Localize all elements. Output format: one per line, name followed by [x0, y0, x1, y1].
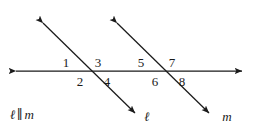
- angle-label-1: 1: [63, 56, 70, 69]
- parallel-line-ell: [43, 23, 135, 113]
- parallel-statement: ℓ∥m: [10, 108, 34, 121]
- angle-label-3: 3: [95, 56, 102, 69]
- angle-label-6: 6: [152, 75, 159, 88]
- geometry-diagram: 1 2 3 4 5 6 7 8 ℓ m ℓ∥m: [0, 0, 260, 136]
- line-label-m: m: [222, 110, 231, 123]
- angle-label-8: 8: [179, 75, 186, 88]
- parallel-statement-line2: m: [24, 107, 34, 122]
- line-label-ell: ℓ: [144, 110, 149, 123]
- angle-label-5: 5: [138, 56, 145, 69]
- angle-label-7: 7: [169, 56, 176, 69]
- parallel-line-m: [117, 23, 209, 113]
- geometry-canvas: [0, 0, 260, 136]
- angle-label-2: 2: [77, 75, 84, 88]
- angle-label-4: 4: [104, 75, 111, 88]
